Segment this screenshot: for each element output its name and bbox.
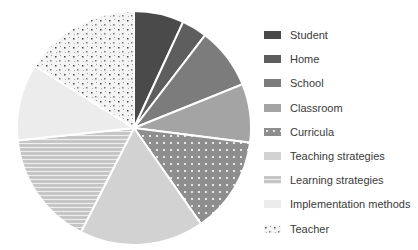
legend-swatch-icon [264,104,281,112]
legend-item: Implementation methods [264,192,410,216]
legend-swatch-icon [264,176,281,184]
legend-item: Teacher [264,217,410,241]
legend-label: Teaching strategies [290,150,385,162]
legend-item: Home [264,47,410,71]
legend-swatch-icon [264,128,281,136]
legend-item: Curricula [264,120,410,144]
legend-label: Learning strategies [290,174,384,186]
legend-label: Home [290,53,319,65]
legend-item: Classroom [264,96,410,120]
legend-item: Learning strategies [264,168,410,192]
legend-swatch-icon [264,31,281,39]
legend-label: Implementation methods [290,198,410,210]
legend-label: Curricula [290,126,334,138]
legend-swatch-icon [264,79,281,87]
pie-slices [17,11,251,245]
legend-label: School [290,77,324,89]
legend: StudentHomeSchoolClassroomCurriculaTeach… [264,23,410,241]
legend-item: Student [264,23,410,47]
pie-chart [0,0,260,250]
legend-label: Teacher [290,223,329,235]
legend-swatch-icon [264,200,281,208]
legend-label: Student [290,29,328,41]
legend-item: School [264,71,410,95]
legend-label: Classroom [290,102,343,114]
legend-swatch-icon [264,225,281,233]
legend-swatch-icon [264,55,281,63]
legend-item: Teaching strategies [264,144,410,168]
legend-swatch-icon [264,152,281,160]
